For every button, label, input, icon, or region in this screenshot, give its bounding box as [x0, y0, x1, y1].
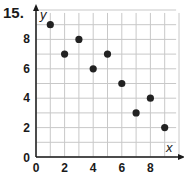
- scatter-plot: 0246802468 x y: [0, 0, 184, 174]
- data-point: [61, 51, 68, 58]
- data-point: [75, 36, 82, 43]
- x-tick-label: 4: [90, 161, 97, 174]
- y-tick-label: 0: [23, 151, 30, 165]
- y-axis-label: y: [39, 7, 48, 22]
- data-point: [118, 80, 125, 87]
- y-tick-label: 2: [23, 121, 30, 135]
- x-axis-arrow-icon: [178, 154, 184, 160]
- x-tick-label: 6: [118, 161, 125, 174]
- x-tick-label: 2: [61, 161, 68, 174]
- data-point: [161, 124, 168, 131]
- y-axis-arrow-icon: [33, 4, 39, 11]
- y-tick-label: 8: [23, 32, 30, 46]
- data-point: [147, 95, 154, 102]
- grid-lines: [36, 10, 179, 157]
- y-tick-label: 4: [23, 91, 30, 105]
- data-point: [47, 21, 54, 28]
- x-tick-label: 0: [33, 161, 40, 174]
- axes: [33, 4, 184, 160]
- data-point: [133, 109, 140, 116]
- data-point: [104, 51, 111, 58]
- x-axis-label: x: [165, 140, 173, 155]
- y-tick-label: 6: [23, 62, 30, 76]
- x-tick-label: 8: [147, 161, 154, 174]
- data-point: [90, 65, 97, 72]
